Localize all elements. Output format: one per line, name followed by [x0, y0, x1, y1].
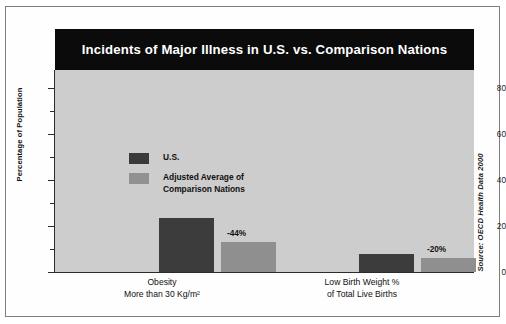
category-label-low-birth-weight: Low Birth Weight % of Total Live Births — [282, 277, 442, 300]
obesity-reduction-label: -44% — [227, 229, 246, 238]
y-axis-title: Percentage of Population — [15, 85, 24, 185]
y-tick-0 — [48, 272, 55, 273]
chart-legend: U.S. Adjusted Average of Comparison Nati… — [129, 152, 245, 203]
us-legend-swatch — [129, 153, 149, 164]
obesity-adj-bar — [221, 242, 276, 272]
legend-item-adjusted: Adjusted Average of Comparison Nations — [129, 172, 245, 195]
y-minor-tick-50 — [50, 157, 55, 158]
y-tick-60 — [48, 134, 55, 135]
y-minor-tick-10 — [50, 249, 55, 250]
y-tick-label-80: 80 — [462, 83, 506, 93]
adjusted-legend-swatch — [129, 173, 149, 184]
legend-label-us: U.S. — [163, 152, 179, 164]
legend-item-us: U.S. — [129, 152, 245, 164]
lbw-reduction-label: -20% — [427, 245, 446, 254]
y-tick-20 — [48, 226, 55, 227]
chart-figure: Incidents of Major Illness in U.S. vs. C… — [0, 0, 506, 324]
plot-area: U.S. Adjusted Average of Comparison Nati… — [55, 70, 474, 272]
legend-label-adjusted: Adjusted Average of Comparison Nations — [163, 172, 245, 195]
y-tick-80 — [48, 88, 55, 89]
y-axis-line — [54, 70, 55, 273]
obesity-us-bar — [159, 218, 214, 272]
category-label-obesity: Obesity More than 30 Kg/m² — [82, 277, 242, 300]
y-minor-tick-70 — [50, 111, 55, 112]
y-tick-40 — [48, 180, 55, 181]
lbw-us-bar — [359, 254, 414, 272]
source-note: Source: OECD Health Data 2000 — [476, 133, 485, 293]
chart-title: Incidents of Major Illness in U.S. vs. C… — [82, 42, 447, 57]
x-axis-line — [48, 272, 474, 273]
chart-title-banner: Incidents of Major Illness in U.S. vs. C… — [55, 29, 474, 70]
y-minor-tick-30 — [50, 203, 55, 204]
